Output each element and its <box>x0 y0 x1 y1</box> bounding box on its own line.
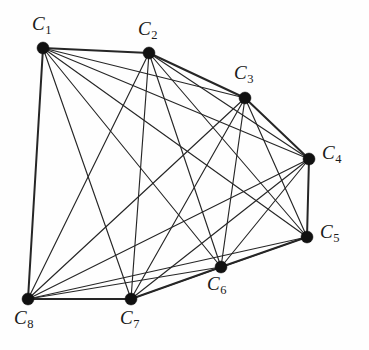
vertex-label-letter: C <box>322 142 335 163</box>
vertex-label-letter: C <box>120 307 133 328</box>
vertex-layer <box>22 42 315 305</box>
graph-vertex-c7 <box>125 293 137 305</box>
graph-edge-c2-c4 <box>149 53 309 159</box>
graph-vertex-c2 <box>143 47 155 59</box>
vertex-label-subscript: 7 <box>133 317 139 331</box>
graph-edge-c1-c6 <box>43 48 221 267</box>
graph-figure: C1C2C3C4C5C6C7C8 <box>0 0 369 350</box>
vertex-label-c2: C2 <box>138 19 157 42</box>
graph-edge-c5-c8 <box>28 237 307 299</box>
graph-edge-c2-c3 <box>149 53 245 98</box>
vertex-label-c3: C3 <box>234 63 253 86</box>
graph-edge-c3-c7 <box>131 98 245 299</box>
vertex-label-letter: C <box>32 13 45 34</box>
graph-vertex-c3 <box>239 92 251 104</box>
vertex-label-subscript: 3 <box>247 72 253 86</box>
vertex-label-subscript: 5 <box>333 231 339 245</box>
graph-vertex-c1 <box>37 42 49 54</box>
vertex-label-subscript: 1 <box>45 23 51 37</box>
vertex-label-c6: C6 <box>207 274 226 297</box>
vertex-label-subscript: 4 <box>335 152 341 166</box>
graph-vertex-c6 <box>215 261 227 273</box>
vertex-label-c7: C7 <box>120 308 139 331</box>
vertex-label-c5: C5 <box>320 222 339 245</box>
vertex-label-subscript: 2 <box>151 28 157 42</box>
vertex-label-letter: C <box>234 62 247 83</box>
vertex-label-letter: C <box>138 18 151 39</box>
vertex-label-c8: C8 <box>14 308 33 331</box>
edge-layer <box>28 48 309 299</box>
graph-vertex-c8 <box>22 293 34 305</box>
vertex-label-letter: C <box>320 221 333 242</box>
vertex-label-subscript: 8 <box>27 317 33 331</box>
graph-edge-c2-c8 <box>28 53 149 299</box>
graph-edge-c2-c5 <box>149 53 307 237</box>
graph-edge-c1-c8 <box>28 48 43 299</box>
vertex-label-letter: C <box>207 273 220 294</box>
graph-vertex-c5 <box>301 231 313 243</box>
graph-edge-c4-c8 <box>28 159 309 299</box>
graph-edge-c1-c7 <box>43 48 131 299</box>
graph-canvas <box>0 0 369 350</box>
vertex-label-letter: C <box>14 307 27 328</box>
vertex-label-c1: C1 <box>32 14 51 37</box>
graph-edge-c1-c5 <box>43 48 307 237</box>
graph-edge-c4-c5 <box>307 159 309 237</box>
vertex-label-subscript: 6 <box>220 283 226 297</box>
vertex-label-c4: C4 <box>322 143 341 166</box>
graph-vertex-c4 <box>303 153 315 165</box>
graph-edge-c3-c4 <box>245 98 309 159</box>
